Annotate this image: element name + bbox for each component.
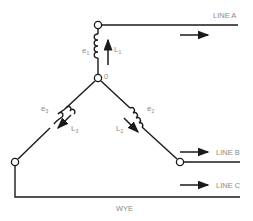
arrow-l3-icon bbox=[58, 115, 71, 128]
winding-2-lead-upper bbox=[101, 81, 130, 108]
line-c-wire bbox=[15, 166, 240, 197]
winding-1-coil bbox=[94, 34, 98, 58]
node-line-c bbox=[11, 158, 18, 165]
line-a-label: LINE A bbox=[213, 11, 236, 20]
arrow-l2-icon bbox=[124, 118, 138, 132]
wye-connection-schematic: LINE A LINE B LINE C WYE 0 e1 L1 e3 L3 e… bbox=[0, 0, 253, 221]
node-line-a bbox=[94, 21, 101, 28]
wye-title: WYE bbox=[116, 204, 133, 213]
winding-2-coil bbox=[130, 108, 143, 127]
emf-1-label: e1 bbox=[82, 46, 89, 56]
inductor-1-label: L1 bbox=[114, 45, 121, 55]
emf-2-label: e2 bbox=[147, 104, 154, 114]
line-b-label: LINE B bbox=[216, 148, 240, 157]
node-neutral bbox=[94, 74, 101, 81]
node-line-b bbox=[176, 158, 183, 165]
winding-3-lead-lower bbox=[18, 128, 50, 159]
wye-diagram: LINE A LINE B LINE C WYE 0 e1 L1 e3 L3 e… bbox=[0, 0, 253, 221]
line-c-label: LINE C bbox=[216, 181, 241, 190]
winding-3-lead-upper bbox=[66, 81, 95, 108]
emf-3-label: e3 bbox=[41, 104, 48, 114]
inductor-3-label: L3 bbox=[71, 124, 78, 134]
winding-2-lead-lower bbox=[142, 127, 177, 159]
neutral-label: 0 bbox=[104, 72, 108, 81]
inductor-2-label: L2 bbox=[116, 124, 123, 134]
